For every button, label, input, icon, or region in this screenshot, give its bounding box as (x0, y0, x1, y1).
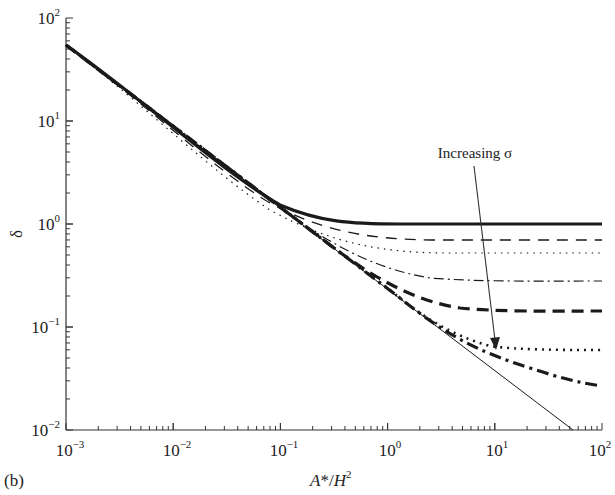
x-tick-label-0.1: 10−1 (270, 438, 299, 460)
curve-sigma-5 (66, 45, 602, 311)
x-axis-ticks (66, 423, 602, 430)
plot-area (66, 45, 602, 430)
y-tick-label-1: 100 (38, 212, 61, 234)
annotation-arrow-shaft (474, 166, 495, 340)
x-tick-labels: 10−3 10−2 10−1 100 101 102 (56, 438, 612, 460)
y-axis-title: δ (7, 230, 26, 238)
curve-sigma-1 (66, 45, 602, 224)
curve-sigma-7 (66, 45, 602, 386)
annotation-text: Increasing σ (438, 145, 512, 161)
y-tick-labels: 102 101 100 10−1 10−2 (31, 6, 60, 440)
x-tick-label-100: 102 (589, 438, 612, 460)
increasing-sigma-annotation: Increasing σ (438, 145, 512, 350)
x-tick-label-10: 101 (486, 438, 509, 460)
arrow-head-icon (490, 337, 500, 350)
y-tick-label-10: 101 (38, 109, 61, 131)
x-tick-label-0.001: 10−3 (56, 438, 85, 460)
x-axis-title: A*/H2 (309, 468, 351, 490)
curve-sigma-2 (66, 45, 602, 240)
y-axis-ticks (66, 18, 73, 430)
x-tick-label-0.01: 10−2 (163, 438, 192, 460)
chart-canvas: 102 101 100 10−1 10−2 10−3 10−2 10−1 100… (0, 0, 615, 495)
y-tick-label-100: 102 (38, 6, 61, 28)
curve-sigma-6 (66, 45, 602, 350)
panel-label: (b) (4, 471, 24, 490)
y-tick-label-0.01: 10−2 (31, 418, 60, 440)
x-tick-label-1: 100 (379, 438, 402, 460)
y-tick-label-0.1: 10−1 (31, 315, 60, 337)
curve-sigma-4 (66, 45, 602, 281)
